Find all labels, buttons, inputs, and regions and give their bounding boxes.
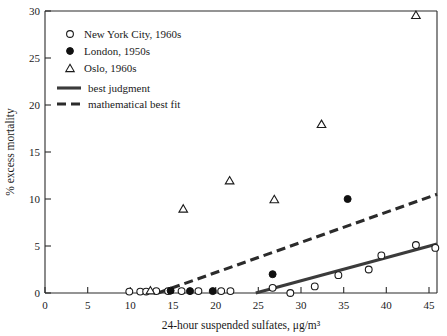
point-oslo [179, 205, 188, 212]
y-axis-ticks [45, 11, 51, 293]
legend-label-math-best-fit: mathematical best fit [88, 98, 180, 110]
y-tick-label-5: 5 [35, 240, 41, 252]
point-nyc [311, 283, 318, 290]
point-london [269, 271, 276, 278]
x-tick-label-0: 0 [42, 299, 48, 311]
point-london [209, 288, 216, 295]
y-tick-label-30: 30 [29, 5, 41, 17]
point-london [187, 288, 194, 295]
point-nyc [335, 272, 342, 279]
y-tick-label-20: 20 [29, 99, 41, 111]
chart-figure: 0 5 10 15 20 25 30 0 5 10 15 20 [0, 0, 447, 336]
point-nyc [126, 288, 133, 295]
point-oslo [270, 195, 279, 202]
point-nyc [378, 252, 385, 259]
series-oslo [146, 11, 420, 294]
mathematical-best-fit-line [158, 194, 437, 293]
x-tick-label-30: 30 [296, 299, 308, 311]
legend-label-oslo: Oslo, 1960s [84, 62, 137, 74]
legend-label-nyc: New York City, 1960s [84, 28, 181, 40]
point-nyc [269, 284, 276, 291]
point-london [344, 196, 351, 203]
point-london [167, 287, 174, 294]
point-nyc [413, 242, 420, 249]
y-tick-label-25: 25 [29, 52, 41, 64]
legend-label-best-judgment: best judgment [88, 82, 150, 94]
best-judgment-line [256, 244, 437, 293]
point-oslo [317, 120, 326, 127]
y-axis-title: % excess mortality [4, 108, 17, 196]
point-nyc [178, 288, 185, 295]
point-nyc [195, 288, 202, 295]
x-tick-label-20: 20 [210, 299, 222, 311]
y-tick-label-15: 15 [29, 146, 41, 158]
scatter-plot-svg: 0 5 10 15 20 25 30 0 5 10 15 20 [0, 0, 447, 336]
x-tick-label-15: 15 [168, 299, 180, 311]
fit-lines [158, 194, 437, 293]
x-tick-label-10: 10 [125, 299, 137, 311]
point-oslo [412, 11, 421, 18]
legend-marker-open-triangle-icon [66, 64, 74, 71]
x-tick-label-45: 45 [424, 299, 436, 311]
x-axis-tick-labels: 0 5 10 15 20 25 30 35 40 45 [42, 299, 435, 311]
y-axis-tick-labels: 0 5 10 15 20 25 30 [29, 5, 41, 299]
y-tick-label-10: 10 [29, 193, 41, 205]
legend-marker-filled-circle-icon [67, 48, 74, 55]
point-nyc [432, 244, 439, 251]
point-nyc [218, 288, 225, 295]
legend-marker-open-circle-icon [67, 31, 74, 38]
x-axis-title: 24-hour suspended sulfates, μg/m³ [162, 319, 321, 332]
x-axis-ticks [45, 287, 429, 293]
x-tick-label-35: 35 [338, 299, 350, 311]
point-oslo [225, 177, 234, 184]
x-tick-label-25: 25 [253, 299, 265, 311]
point-nyc [365, 266, 372, 273]
x-tick-label-5: 5 [85, 299, 91, 311]
legend-label-london: London, 1950s [84, 45, 150, 57]
x-tick-label-40: 40 [381, 299, 393, 311]
chart-legend: New York City, 1960s London, 1950s Oslo,… [57, 28, 181, 110]
point-nyc [227, 288, 234, 295]
y-tick-label-0: 0 [35, 287, 41, 299]
series-london [167, 196, 351, 295]
point-nyc [287, 290, 294, 297]
